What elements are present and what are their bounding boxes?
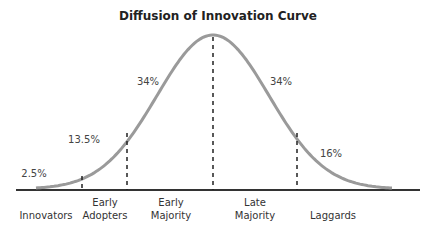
diffusion-chart: Diffusion of Innovation Curve 2.5% 13.5%… (0, 0, 436, 236)
value-label-early-majority: 34% (137, 76, 159, 87)
category-label-early-adopters-line2: Adopters (83, 210, 128, 221)
category-label-early-majority-line2: Majority (151, 210, 191, 221)
category-label-early-adopters-line1: Early (92, 197, 117, 208)
value-label-early-adopters: 13.5% (68, 134, 100, 145)
bell-curve (36, 35, 392, 188)
chart-title: Diffusion of Innovation Curve (119, 9, 317, 23)
value-label-innovators: 2.5% (21, 168, 46, 179)
value-label-late-majority: 34% (270, 76, 292, 87)
category-label-innovators: Innovators (19, 210, 72, 221)
category-label-late-majority-line2: Majority (235, 210, 275, 221)
category-label-late-majority-line1: Late (244, 197, 266, 208)
value-label-laggards: 16% (320, 148, 342, 159)
category-label-laggards: Laggards (310, 210, 356, 221)
category-label-early-majority-line1: Early (158, 197, 183, 208)
